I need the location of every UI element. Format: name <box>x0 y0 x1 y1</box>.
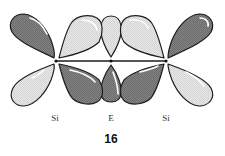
orbital-diagram: Si E Si 16 <box>0 0 225 156</box>
left-si-inner-upper-lobe <box>59 16 102 58</box>
left-si-lower-lobe <box>11 64 54 106</box>
atom-label-e: E <box>108 113 114 123</box>
left-si-inner-lower-lobe <box>59 64 103 104</box>
e-upper-lobe <box>101 16 121 57</box>
atom-label-left-si: Si <box>51 113 59 123</box>
left-si-upper-lobe <box>10 14 54 58</box>
nucleus-right-si <box>164 59 167 62</box>
nucleus-e <box>109 59 112 62</box>
right-si-lower-lobe <box>168 64 213 106</box>
figure-number: 16 <box>104 132 118 146</box>
right-si-inner-lower-lobe <box>120 64 164 104</box>
atom-label-right-si: Si <box>162 113 170 123</box>
nucleus-left-si <box>54 59 57 62</box>
e-lower-lobe <box>101 65 121 102</box>
